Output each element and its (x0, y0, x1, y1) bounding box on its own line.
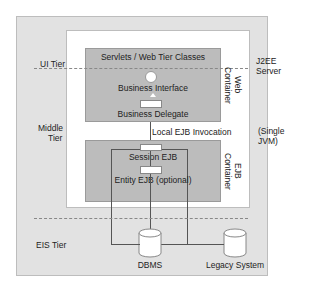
dbms-connector-line (111, 244, 140, 245)
entity-ejb-label: Entity EJB (optional) (85, 175, 221, 185)
eis-tier-divider (34, 218, 248, 219)
single-jvm-label-1: (Single (258, 126, 284, 136)
entity-dbms-line (150, 174, 151, 232)
legacy-connector-horizontal (187, 244, 224, 245)
business-delegate-box (140, 100, 162, 108)
single-jvm-label-2: JVM) (258, 136, 278, 146)
local-ejb-invocation-label: Local EJB Invocation (152, 127, 231, 137)
legacy-system-cylinder-icon (223, 228, 247, 258)
j2ee-label: J2EE (256, 56, 276, 66)
eis-tier-label: EIS Tier (36, 240, 66, 250)
business-delegate-label: Business Delegate (85, 109, 221, 119)
business-interface-label: Business Interface (85, 83, 221, 93)
arrow-up-icon (150, 93, 156, 97)
web-container-label: WebContainer (223, 48, 243, 122)
server-label: Server (256, 66, 281, 76)
dbms-label: DBMS (130, 260, 170, 270)
ui-tier-label: UI Tier (40, 59, 65, 69)
session-ejb-label: Session EJB (85, 152, 221, 162)
middle-tier-label-1: Middle (38, 123, 63, 133)
business-interface-icon (145, 71, 157, 83)
ejb-container-label: EJBContainer (223, 140, 243, 202)
middle-tier-label-2: Tier (48, 133, 62, 143)
legacy-system-label: Legacy System (205, 260, 265, 270)
entity-ejb-box (140, 166, 162, 174)
servlets-label: Servlets / Web Tier Classes (85, 52, 221, 62)
ui-tier-divider (34, 68, 248, 69)
dbms-cylinder-icon (138, 228, 162, 258)
session-entity-line (150, 151, 151, 166)
session-ejb-box (140, 144, 162, 151)
invocation-line (150, 122, 151, 140)
